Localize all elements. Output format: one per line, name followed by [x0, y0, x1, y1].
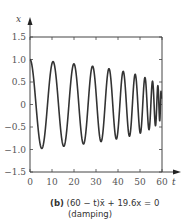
svg-text:0.5: 0.5 [12, 77, 27, 87]
caption-note: (damping) [50, 209, 159, 220]
svg-text:−0.5: −0.5 [4, 122, 26, 132]
svg-text:1.5: 1.5 [12, 32, 27, 42]
svg-text:1.0: 1.0 [12, 55, 27, 65]
data-series-curve [30, 60, 161, 149]
svg-text:50: 50 [134, 177, 146, 187]
svg-text:40: 40 [112, 177, 124, 187]
y-axis-label: x [16, 14, 21, 24]
svg-text:0: 0 [20, 100, 26, 110]
y-axis-arrow-icon [28, 17, 33, 25]
figure-caption: (b) (60 − t)x̄ + 19.6x = 0 (damping) [50, 198, 159, 220]
svg-text:0: 0 [27, 177, 33, 187]
svg-text:10: 10 [46, 177, 58, 187]
svg-text:30: 30 [90, 177, 102, 187]
svg-text:−1.5: −1.5 [4, 167, 26, 177]
caption-label: (b) [50, 198, 64, 208]
x-axis-arrow-icon [173, 170, 181, 175]
x-axis-label: t [172, 177, 176, 187]
svg-text:60: 60 [156, 177, 168, 187]
svg-text:20: 20 [68, 177, 80, 187]
caption-equation: (60 − t)x̄ + 19.6x = 0 [67, 198, 160, 208]
chart: 0102030405060tx1.51.00.50−0.5−1.0−1.5 [0, 0, 188, 195]
svg-text:−1.0: −1.0 [4, 145, 26, 155]
